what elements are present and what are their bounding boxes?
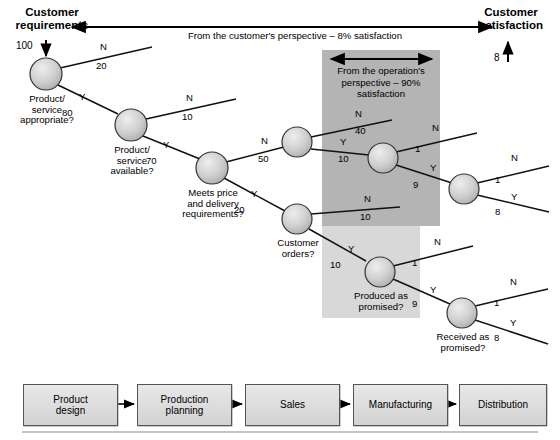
branch-value-n1-yes: 80 [62,108,73,119]
operation-perspective-line1: From the operation's [324,65,438,77]
branch-value-n2-no: 10 [182,112,193,123]
process-box-distribution[interactable]: Distribution [459,384,547,426]
edge-n6-no [477,166,549,183]
branch-answer-n1-yes: Y [79,92,85,103]
edge-n3-no [226,147,284,162]
operation-perspective-line2: perspective – 90% [324,77,438,89]
decision-node-n4[interactable] [282,127,312,157]
process-box-label: Production planning [161,394,209,417]
branch-value-n8-yes: 9 [412,299,417,310]
customer-requirements-title: Customer requirements [6,6,98,32]
branch-value-n4-yes: 10 [338,154,349,165]
branch-answer-n8-no: N [434,237,441,248]
branch-answer-n3-no: N [261,136,268,147]
decision-node-n5[interactable] [368,143,398,173]
decision-node-n8[interactable] [365,257,395,287]
branch-answer-n2-yes: Y [163,140,169,151]
end-value: 8 [494,52,500,63]
branch-answer-n5-no: N [432,123,439,134]
branch-value-n8-no: 1 [412,258,417,269]
decision-node-n9[interactable] [447,298,477,328]
branch-value-n9-no: 1 [494,298,499,309]
process-box-label: Product design [53,394,87,417]
customer-satisfaction-title: Customer satisfaction [466,6,556,32]
edge-n9-no [475,289,548,306]
branch-value-n3-no: 50 [258,154,269,165]
customer-requirements-line1: Customer [6,6,98,19]
process-box-manufacturing[interactable]: Manufacturing [353,384,448,426]
diagram-canvas: Customer requirements Customer satisfact… [0,0,560,440]
process-box-sales[interactable]: Sales [245,384,340,426]
branch-value-n6-yes: 8 [495,207,500,218]
branch-answer-n2-no: N [186,93,193,104]
process-box-production-planning[interactable]: Production planning [137,384,232,426]
branch-value-n3-yes: 20 [234,205,245,216]
decision-node-n3[interactable] [196,152,228,184]
node-caption-meets-price-delivery: Meets price and delivery requirements? [162,188,264,220]
branch-answer-n4-yes: Y [340,137,346,148]
branch-answer-n9-yes: Y [510,318,516,329]
branch-value-n5-no: 1 [415,144,420,155]
caption-line: promised? [416,343,510,354]
caption-line: appropriate? [0,115,94,126]
branch-answer-n7-yes: Y [348,244,354,255]
branch-answer-n8-yes: Y [430,285,436,296]
decision-tree-svg [0,0,560,440]
branch-answer-n1-no: N [100,42,107,53]
decision-node-n6[interactable] [449,174,479,204]
decision-node-n2[interactable] [115,109,147,141]
process-box-label: Manufacturing [369,399,432,411]
decision-node-n7[interactable] [282,204,312,234]
decision-node-n1[interactable] [30,58,62,90]
customer-satisfaction-line1: Customer [466,6,556,19]
caption-line: orders? [256,249,340,260]
branch-value-n9-yes: 8 [494,333,499,344]
customer-perspective-label: From the customer's perspective – 8% sat… [150,31,440,42]
caption-line: requirements? [162,209,264,220]
caption-line: available? [86,166,178,177]
start-value: 100 [16,40,33,51]
branch-value-n7-no: 10 [360,212,371,223]
branch-answer-n6-no: N [511,153,518,164]
process-box-label: Sales [280,399,305,411]
process-box-label: Distribution [478,399,528,411]
node-caption-customer-orders: Customer orders? [256,238,340,259]
branch-answer-n9-no: N [510,277,517,288]
branch-value-n2-yes: 70 [146,156,157,167]
branch-value-n7-yes: 10 [330,260,341,271]
branch-value-n6-no: 1 [495,175,500,186]
customer-requirements-line2: requirements [6,19,98,32]
operation-perspective-line3: satisfaction [324,88,438,100]
branch-answer-n5-yes: Y [430,163,436,174]
operation-perspective-label: From the operation's perspective – 90% s… [324,65,438,100]
branch-answer-n3-yes: Y [251,189,257,200]
branch-answer-n6-yes: Y [511,192,517,203]
branch-answer-n7-no: N [364,194,371,205]
customer-satisfaction-line2: satisfaction [466,19,556,32]
process-box-product-design[interactable]: Product design [23,384,118,426]
branch-value-n1-no: 20 [96,61,107,72]
branch-value-n5-yes: 9 [413,180,418,191]
branch-value-n4-no: 40 [355,126,366,137]
branch-answer-n4-no: N [355,109,362,120]
